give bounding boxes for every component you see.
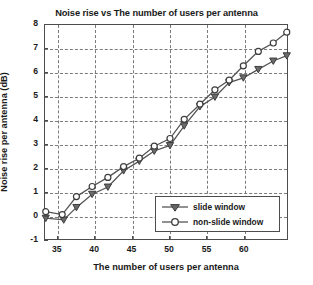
y-tick-label: 5 xyxy=(0,91,38,100)
data-point-marker-triangle-down xyxy=(104,184,111,190)
y-tick-label: 8 xyxy=(0,19,38,28)
legend-item-slide-window[interactable]: slide window xyxy=(156,199,279,214)
x-tick-label: 45 xyxy=(117,245,147,254)
legend-item-non-slide-window[interactable]: non-slide window xyxy=(156,214,279,229)
data-point-marker-circle xyxy=(136,155,142,161)
data-point-marker-circle xyxy=(105,174,111,180)
legend-marker-circle-icon xyxy=(160,215,190,229)
x-axis-title: The number of users per antenna xyxy=(44,262,288,272)
data-point-marker-circle xyxy=(212,87,218,93)
y-tick-mark xyxy=(44,48,48,49)
y-tick-mark xyxy=(44,192,48,193)
data-point-marker-circle xyxy=(197,101,203,107)
x-tick-mark xyxy=(169,236,170,240)
y-tick-label: 1 xyxy=(0,187,38,196)
x-tick-mark xyxy=(94,236,95,240)
data-point-marker-circle xyxy=(270,40,276,46)
y-tick-label: 4 xyxy=(0,115,38,124)
x-tick-label: 60 xyxy=(229,245,259,254)
y-tick-mark xyxy=(44,240,48,241)
data-point-marker-circle xyxy=(121,164,127,170)
y-tick-mark xyxy=(44,120,48,121)
data-point-marker-circle xyxy=(226,77,232,83)
chart-figure: Noise rise vs The number of users per an… xyxy=(0,0,313,285)
legend-label-non-slide-window: non-slide window xyxy=(193,217,263,227)
data-point-marker-circle xyxy=(43,209,49,215)
y-tick-label: 6 xyxy=(0,67,38,76)
data-point-marker-circle xyxy=(255,48,261,54)
legend-label-slide-window: slide window xyxy=(193,202,245,212)
data-point-marker-triangle-down xyxy=(283,53,290,59)
data-point-marker-circle xyxy=(89,184,95,190)
y-tick-label: -1 xyxy=(0,235,38,244)
x-tick-label: 50 xyxy=(154,245,184,254)
x-tick-mark xyxy=(206,236,207,240)
x-tick-mark xyxy=(57,236,58,240)
chart-title: Noise rise vs The number of users per an… xyxy=(0,8,313,18)
data-point-marker-triangle-down xyxy=(255,66,262,72)
chart-legend: slide window non-slide window xyxy=(155,196,280,232)
y-tick-mark xyxy=(44,144,48,145)
y-tick-label: 7 xyxy=(0,43,38,52)
y-tick-label: 2 xyxy=(0,163,38,172)
data-point-marker-circle xyxy=(240,63,246,69)
data-point-marker-circle xyxy=(59,212,65,218)
data-point-marker-circle xyxy=(167,136,173,142)
data-point-marker-circle xyxy=(181,116,187,122)
y-axis-title: Noise rise per antenna (dB) xyxy=(0,24,11,240)
data-point-marker-circle xyxy=(151,143,157,149)
y-tick-mark xyxy=(44,24,48,25)
y-tick-label: 3 xyxy=(0,139,38,148)
y-tick-mark xyxy=(44,72,48,73)
data-point-marker-triangle-down xyxy=(211,94,218,100)
x-tick-label: 35 xyxy=(42,245,72,254)
data-point-marker-triangle-down xyxy=(270,58,277,64)
data-point-marker-circle xyxy=(284,29,290,35)
series-line-non-slide-window xyxy=(46,32,287,214)
y-tick-label: 0 xyxy=(0,211,38,220)
x-tick-mark xyxy=(244,236,245,240)
y-tick-mark xyxy=(44,168,48,169)
data-point-marker-circle xyxy=(73,194,79,200)
y-tick-mark xyxy=(44,216,48,217)
legend-marker-triangle-down-icon xyxy=(160,200,190,214)
y-tick-mark xyxy=(44,96,48,97)
x-tick-mark xyxy=(132,236,133,240)
x-tick-label: 40 xyxy=(79,245,109,254)
x-tick-label: 55 xyxy=(191,245,221,254)
